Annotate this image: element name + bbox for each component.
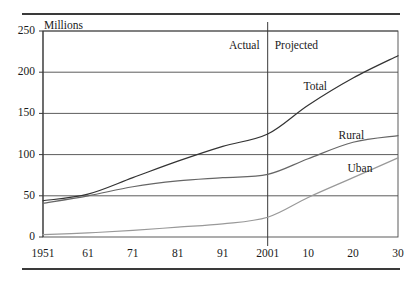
- y-tick-label: 200: [3, 66, 35, 78]
- y-tick-label: 150: [3, 107, 35, 119]
- y-tick-label: 250: [3, 25, 35, 37]
- x-tick-label: 71: [111, 248, 155, 260]
- x-tick-label: 61: [66, 248, 110, 260]
- x-tick-label: 81: [156, 248, 200, 260]
- period-label-actual: Actual: [0, 39, 260, 51]
- series-label-rural: Rural: [339, 129, 365, 141]
- y-tick-label: 50: [3, 190, 35, 202]
- x-tick-label: 20: [331, 248, 375, 260]
- x-tick-label: 1951: [21, 248, 65, 260]
- x-tick-label: 10: [286, 248, 330, 260]
- series-label-uban: Uban: [348, 162, 373, 174]
- y-tick-marks: [39, 31, 43, 237]
- gridlines: [43, 31, 398, 196]
- x-tick-label: 30: [376, 248, 414, 260]
- series-label-total: Total: [304, 80, 327, 92]
- series-line-rural: [43, 136, 398, 204]
- period-label-projected: Projected: [275, 39, 318, 51]
- x-tick-label: 91: [201, 248, 245, 260]
- x-tick-label: 2001: [246, 248, 290, 260]
- series-lines: [43, 56, 398, 235]
- population-chart-figure: Millions 050100150200250 195161718191200…: [0, 0, 414, 281]
- y-tick-label: 0: [3, 231, 35, 243]
- y-tick-label: 100: [3, 149, 35, 161]
